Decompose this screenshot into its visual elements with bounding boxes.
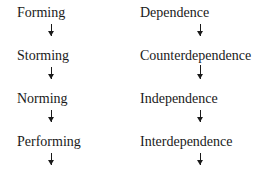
down-arrow-icon [200, 153, 201, 165]
down-arrow-icon [51, 67, 52, 79]
stage-performing: Performing [17, 135, 81, 149]
down-arrow-icon [200, 110, 201, 122]
down-arrow-icon [200, 24, 201, 36]
down-arrow-icon [200, 65, 201, 79]
stage-interdependence: Interdependence [140, 135, 233, 149]
stage-forming: Forming [17, 6, 65, 20]
down-arrow-icon [51, 24, 52, 36]
stage-norming: Norming [17, 92, 68, 106]
stage-counterdependence: Counterdependence [140, 49, 251, 63]
down-arrow-icon [51, 110, 52, 122]
stage-independence: Independence [140, 92, 218, 106]
stage-storming: Storming [17, 49, 69, 63]
stage-dependence: Dependence [140, 6, 209, 20]
down-arrow-icon [51, 153, 52, 165]
